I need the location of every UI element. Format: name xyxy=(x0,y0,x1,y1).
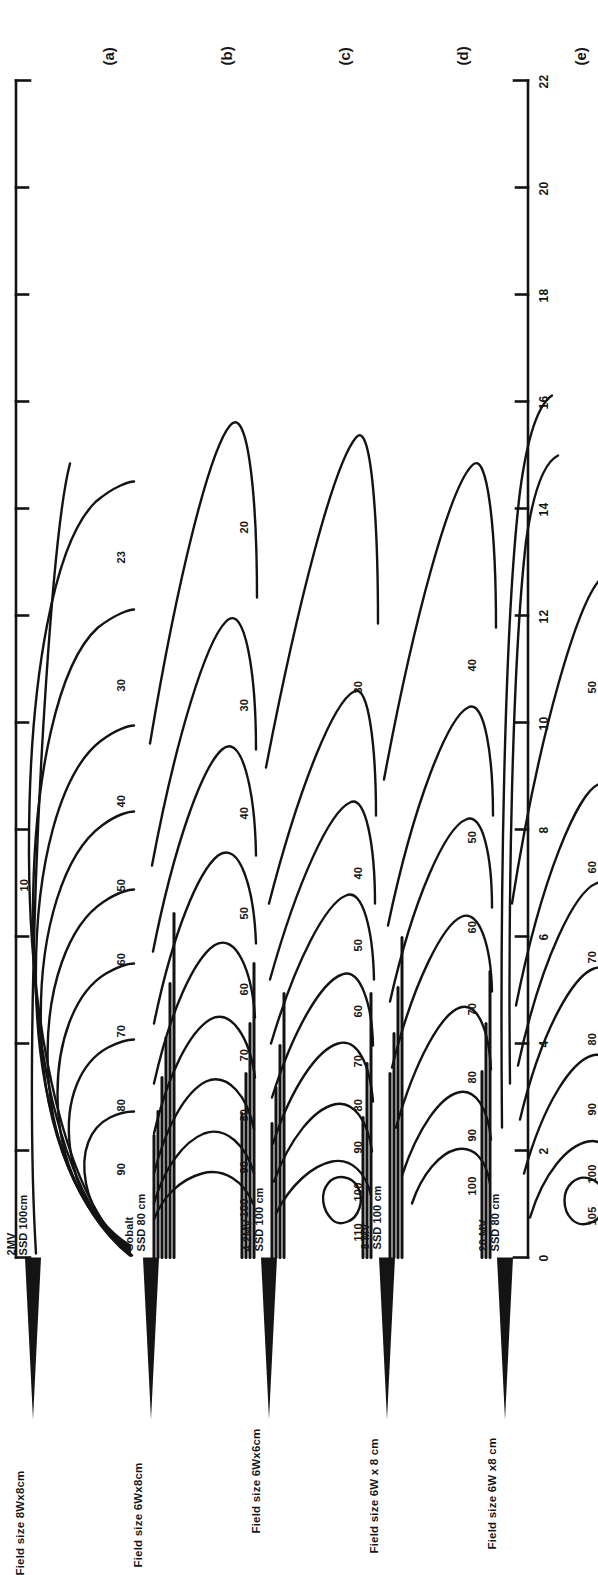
panel-c-energy-label: 4.2MV SSD 100 cm xyxy=(242,1187,266,1251)
panel-c-letter: (c) xyxy=(336,47,353,65)
panel-c-iso-label-60: 60 xyxy=(352,1004,364,1017)
panel-e-iso-label-80: 80 xyxy=(586,1032,598,1045)
panel-b-iso-label-30: 30 xyxy=(238,698,250,711)
panel-b-field-label: Field size 6Wx8cm xyxy=(132,1462,144,1567)
panel-a-wedge-marker xyxy=(22,1249,44,1419)
panel-a-iso-label-60: 60 xyxy=(115,952,127,965)
axis-tick-bottom-2: 2 xyxy=(537,1147,551,1154)
panel-e-iso-label-100: 100 xyxy=(586,1164,598,1183)
panel-d-field-label: Field size 6W x 8 cm xyxy=(368,1438,380,1553)
panel-c-iso-label-30: 30 xyxy=(352,680,364,693)
axis-tick-bottom-14: 14 xyxy=(537,502,551,516)
panel-d-energy-label: 8 MV SSD 100 cm xyxy=(360,1185,384,1249)
panel-c-wedge-marker xyxy=(258,1249,280,1419)
panel-a-letter: (a) xyxy=(100,47,117,65)
panel-c-energy-line-2: SSD 100 cm xyxy=(254,1187,266,1251)
axis-tick-bottom-0: 0 xyxy=(537,1254,551,1261)
axis-tick-bottom-20: 20 xyxy=(537,181,551,195)
panel-a-iso-label-80: 80 xyxy=(115,1098,127,1111)
panel-b-wedge-marker xyxy=(140,1249,162,1419)
panel-b-iso-label-50: 50 xyxy=(238,906,250,919)
panel-d-wedge-marker xyxy=(376,1249,398,1419)
panel-d-energy-line-2: SSD 100 cm xyxy=(372,1185,384,1249)
panel-e-iso-label-50: 50 xyxy=(586,680,598,693)
panel-b-iso-label-40: 40 xyxy=(238,806,250,819)
panel-e-energy-line-2: SSD 80 cm xyxy=(490,1193,502,1251)
panel-b-curves xyxy=(152,0,256,1323)
panel-a-iso-label-50: 50 xyxy=(115,878,127,891)
panel-c-iso-label-80: 80 xyxy=(352,1098,364,1111)
panel-a-energy-line-2: SSD 100cm xyxy=(18,1194,30,1255)
panel-c-field-label: Field size 6Wx6cm xyxy=(250,1428,262,1533)
panel-e-iso-label-90: 90 xyxy=(586,1102,598,1115)
axis-tick-bottom-18: 18 xyxy=(537,288,551,302)
panel-e-iso-label-60: 60 xyxy=(586,860,598,873)
panel-b-energy-line-2: SSD 80 cm xyxy=(136,1193,148,1251)
panel-a-energy-label: 2MV SSD 100cm xyxy=(6,1194,30,1255)
panel-a-field-label: Field size 8Wx8cm xyxy=(14,1470,26,1575)
panel-c-iso-label-40: 40 xyxy=(352,866,364,879)
panel-e-letter: (e) xyxy=(572,47,589,65)
panel-a-iso-label-40: 40 xyxy=(115,794,127,807)
panel-a-curves xyxy=(34,0,138,1323)
panel-c-curves xyxy=(270,0,374,1323)
panel-e-wedge-marker xyxy=(494,1249,516,1419)
panel-e-curves xyxy=(406,0,510,1323)
panel-e-iso-label-105: 105 xyxy=(586,1206,598,1225)
axis-tick-bottom-12: 12 xyxy=(537,609,551,623)
panel-e-energy-label: 20 MV SSD 80 cm xyxy=(478,1193,502,1251)
panel-a-iso-label-10: 10 xyxy=(18,878,30,891)
panel-b-iso-label-90: 90 xyxy=(238,1160,250,1173)
axis-tick-bottom-6: 6 xyxy=(537,933,551,940)
panel-b-energy-label: Cobalt SSD 80 cm xyxy=(124,1193,148,1251)
panel-b-iso-label-70: 70 xyxy=(238,1048,250,1061)
panel-c-iso-label-90: 90 xyxy=(352,1140,364,1153)
panel-a-iso-label-70: 70 xyxy=(115,1024,127,1037)
panel-b-letter: (b) xyxy=(218,46,235,65)
panel-b-iso-label-80: 80 xyxy=(238,1108,250,1121)
panel-a-iso-label-30: 30 xyxy=(115,678,127,691)
panel-a-iso-label-90: 90 xyxy=(115,1162,127,1175)
panel-e-iso-label-70: 70 xyxy=(586,950,598,963)
panel-e-field-label: Field size 6W x8 cm xyxy=(486,1437,498,1549)
axis-ruler-bottom xyxy=(508,0,548,1323)
panel-c-iso-label-50: 50 xyxy=(352,938,364,951)
panel-b-iso-label-20: 20 xyxy=(238,520,250,533)
panel-a-iso-label-23: 23 xyxy=(115,550,127,563)
axis-tick-bottom-22: 22 xyxy=(537,74,551,88)
panel-c-iso-label-70: 70 xyxy=(352,1054,364,1067)
axis-tick-bottom-8: 8 xyxy=(537,826,551,833)
panel-b-iso-label-60: 60 xyxy=(238,982,250,995)
